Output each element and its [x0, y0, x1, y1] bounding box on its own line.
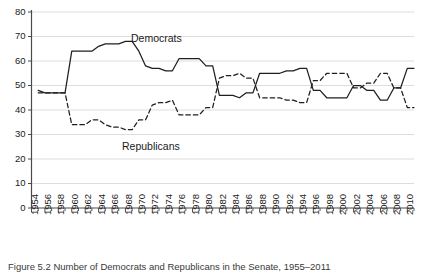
x-tick-label-1972: 1972 [149, 194, 160, 215]
senate-party-composition-chart: 01020304050607080 1954195619581960196219… [0, 0, 423, 274]
x-tick-label-1976: 1976 [176, 194, 187, 215]
x-tick-label-1958: 1958 [55, 194, 66, 215]
y-axis [28, 10, 32, 208]
x-tick-label-1994: 1994 [297, 194, 308, 215]
x-tick-label-1968: 1968 [123, 194, 134, 215]
series-line-republicans [38, 73, 414, 129]
x-tick-label-1992: 1992 [284, 194, 295, 215]
figure-container: 01020304050607080 1954195619581960196219… [0, 0, 423, 274]
y-tick-label-30: 30 [15, 128, 26, 139]
x-tick-label-1986: 1986 [243, 194, 254, 215]
x-tick-label-1982: 1982 [217, 194, 228, 215]
x-tick-label-2008: 2008 [391, 194, 402, 215]
figure-caption: Figure 5.2 Number of Democrats and Repub… [8, 261, 331, 272]
gridlines [32, 12, 415, 184]
y-tick-label-10: 10 [15, 177, 26, 188]
x-tick-label-1970: 1970 [136, 194, 147, 215]
x-tick-label-2002: 2002 [351, 194, 362, 215]
x-tick-label-1954: 1954 [29, 194, 40, 215]
x-tick-label-2004: 2004 [364, 194, 375, 215]
x-tick-label-1980: 1980 [203, 194, 214, 215]
x-tick-label-1960: 1960 [69, 194, 80, 215]
x-tick-label-1974: 1974 [163, 194, 174, 215]
x-tick-label-1978: 1978 [190, 194, 201, 215]
series-label-democrats: Democrats [131, 32, 182, 44]
x-tick-label-1964: 1964 [96, 194, 107, 215]
x-tick-label-2010: 2010 [404, 194, 415, 215]
x-tick-label-1966: 1966 [109, 194, 120, 215]
x-tick-label-1998: 1998 [324, 194, 335, 215]
y-tick-label-60: 60 [15, 55, 26, 66]
series-line-democrats [38, 41, 414, 100]
y-tick-label-0: 0 [20, 202, 25, 213]
y-tick-label-20: 20 [15, 153, 26, 164]
y-tick-label-70: 70 [15, 30, 26, 41]
x-tick-label-1984: 1984 [230, 194, 241, 215]
x-tick-label-1990: 1990 [270, 194, 281, 215]
y-tick-label-50: 50 [15, 79, 26, 90]
y-tick-label-80: 80 [15, 6, 26, 17]
series-label-republicans: Republicans [122, 140, 180, 152]
x-tick-label-1962: 1962 [82, 194, 93, 215]
x-tick-label-1996: 1996 [310, 194, 321, 215]
x-tick-label-2000: 2000 [337, 194, 348, 215]
x-tick-label-2006: 2006 [378, 194, 389, 215]
x-tick-labels: 1954195619581960196219641966196819701972… [29, 194, 416, 215]
x-tick-label-1988: 1988 [257, 194, 268, 215]
x-tick-label-1956: 1956 [42, 194, 53, 215]
y-tick-label-40: 40 [15, 104, 26, 115]
y-tick-labels: 01020304050607080 [15, 6, 26, 213]
